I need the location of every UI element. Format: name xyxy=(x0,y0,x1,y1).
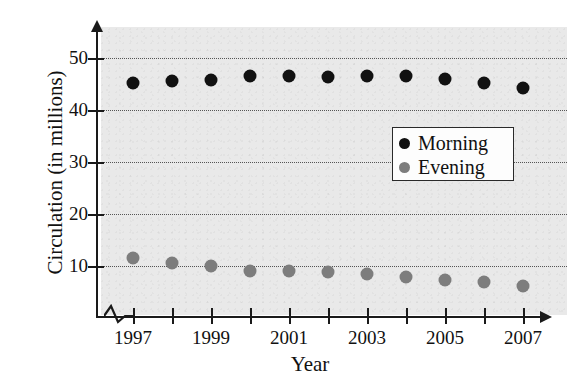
data-point-evening xyxy=(322,266,335,279)
data-point-morning xyxy=(166,75,179,88)
chart-figure: 1020304050 199719992001200320052007 Circ… xyxy=(0,0,568,386)
y-axis-line xyxy=(96,30,98,318)
gridline xyxy=(101,58,567,59)
data-point-morning xyxy=(127,76,140,89)
legend: Morning Evening xyxy=(392,127,514,181)
data-point-morning xyxy=(322,70,335,83)
x-axis-tick-label: 2005 xyxy=(415,328,475,347)
legend-label-evening: Evening xyxy=(418,157,485,177)
x-axis-line xyxy=(96,316,542,318)
data-point-evening xyxy=(361,268,374,281)
x-axis-tick-label: 1997 xyxy=(103,328,163,347)
legend-marker-evening-icon xyxy=(399,162,410,173)
data-point-evening xyxy=(400,271,413,284)
legend-marker-morning-icon xyxy=(399,138,410,149)
x-axis-tick-label: 2001 xyxy=(259,328,319,347)
data-point-morning xyxy=(244,70,257,83)
data-point-evening xyxy=(283,265,296,278)
data-point-morning xyxy=(439,73,452,86)
gridline xyxy=(101,214,567,215)
data-point-evening xyxy=(127,252,140,265)
x-axis-tick-label: 1999 xyxy=(181,328,241,347)
data-point-morning xyxy=(283,69,296,82)
gridline xyxy=(101,110,567,111)
data-point-evening xyxy=(166,257,179,270)
x-axis-arrow-icon xyxy=(540,311,552,323)
data-point-evening xyxy=(439,273,452,286)
data-point-morning xyxy=(517,81,530,94)
data-point-morning xyxy=(205,73,218,86)
data-point-evening xyxy=(244,265,257,278)
legend-label-morning: Morning xyxy=(418,133,488,153)
data-point-morning xyxy=(478,76,491,89)
x-axis-title: Year xyxy=(230,352,390,377)
legend-entry-morning: Morning xyxy=(399,131,507,155)
data-point-evening xyxy=(205,260,218,273)
axis-break-icon xyxy=(104,304,134,324)
legend-entry-evening: Evening xyxy=(399,155,507,179)
data-point-morning xyxy=(400,69,413,82)
x-axis-tick-label: 2003 xyxy=(337,328,397,347)
data-point-evening xyxy=(517,279,530,292)
y-axis-arrow-icon xyxy=(91,20,103,32)
data-point-morning xyxy=(361,69,374,82)
y-axis-title: Circulation (in millions) xyxy=(43,23,68,323)
data-point-evening xyxy=(478,276,491,289)
x-axis-tick-label: 2007 xyxy=(493,328,553,347)
